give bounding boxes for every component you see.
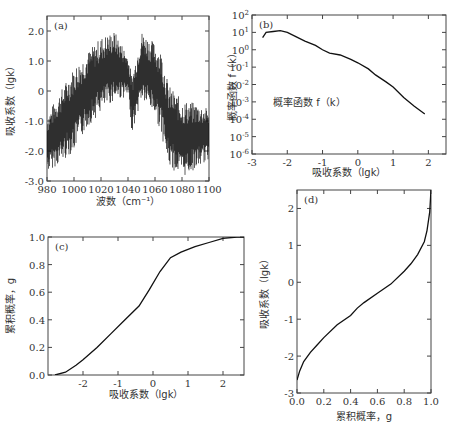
x-tick-label: 1100 [196,184,221,195]
x-axis-label: 吸收系数（lgk） [312,166,387,178]
figure-canvas: 980100010201040106010801100-3.0-2.0-1.00… [0,0,457,430]
x-tick-label: 1000 [61,184,86,195]
x-tick-label: 0 [150,378,156,389]
y-tick-label: 0.2 [29,342,45,353]
chart-panel-a: 980100010201040106010801100-3.0-2.0-1.00… [4,16,222,207]
y-axis-label: 吸收系数（lgk） [258,254,270,329]
y-tick-label: -1.0 [25,116,44,127]
spectrum-trace [47,33,209,175]
y-tick-label: 10-5 [229,131,249,143]
data-curve [297,190,431,380]
y-tick-label: 1.0 [28,56,44,67]
x-tick-label: 2 [220,378,226,389]
x-tick-label: 1020 [88,184,113,195]
y-tick-label: 0.8 [29,260,45,271]
panel-tag: (a) [54,20,68,31]
x-axis-label: 吸收系数（lgk） [109,388,184,400]
x-tick-label: 0.4 [343,396,359,407]
y-tick-label: 101 [232,26,249,38]
data-curve [55,237,244,375]
y-tick-label: -2.0 [25,146,44,157]
y-tick-label: -1 [284,314,294,325]
y-tick-label: -2 [284,351,294,362]
y-tick-label: 1 [288,240,294,251]
y-tick-label: -3 [284,388,294,399]
chart-panel-d: 0.00.20.40.60.81.0-3-2-1012累积概率，g吸收系数（lg… [258,190,439,422]
x-axis-label: 累积概率，g [336,410,392,422]
y-axis-label: 概率函数 f（k） [226,48,238,121]
y-axis-label: 累积概率，g [4,278,16,334]
x-tick-label: -3 [247,157,257,168]
panel-tag: (c) [55,241,69,252]
x-tick-label: -1 [113,378,123,389]
y-tick-label: 0.4 [29,315,45,326]
x-tick-label: 1 [185,378,191,389]
x-tick-label: 1040 [115,184,140,195]
plot-frame [252,15,446,154]
y-tick-label: 0.0 [29,370,45,381]
x-tick-label: 1 [390,157,396,168]
plot-frame [297,190,431,393]
y-tick-label: 0 [288,277,294,288]
x-tick-label: -2 [78,378,88,389]
y-tick-label: 0 [38,86,44,97]
y-tick-label: 2 [288,203,294,214]
x-tick-label: 1.0 [423,396,439,407]
x-tick-label: -2 [282,157,292,168]
chart-panel-b: -3-2-101210210110010-110-210-310-410-510… [226,9,446,178]
x-tick-label: 2 [425,157,431,168]
panel-tag: (d) [304,194,318,205]
chart-panel-c: -2-10120.00.20.40.60.81.0吸收系数（lgk）累积概率，g… [4,232,244,400]
x-tick-label: 0.8 [396,396,412,407]
curve-annotation: 概率函数 f（k） [273,96,346,108]
panel-tag: (b) [259,19,273,30]
y-tick-label: 0.6 [29,287,45,298]
y-tick-label: 1.0 [29,232,45,243]
y-axis-label: 吸收系数（lgk） [4,61,16,136]
y-tick-label: 102 [232,9,249,21]
x-tick-label: 1080 [169,184,194,195]
plot-frame [48,237,244,375]
x-axis-label: 波数（cm⁻¹） [96,195,161,207]
x-tick-label: 1060 [142,184,167,195]
x-tick-label: 0.6 [369,396,385,407]
x-tick-label: 0.2 [316,396,332,407]
y-tick-label: 2.0 [28,26,44,37]
y-tick-label: -3.0 [25,176,44,187]
